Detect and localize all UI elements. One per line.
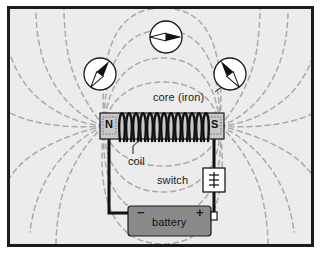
label-terminal-positive: + [196,205,204,220]
battery-terminal-nub [211,212,217,220]
compass-right [214,58,246,90]
field-line-north [56,126,104,246]
field-line-south [220,126,316,180]
field-line-south [220,112,316,127]
field-line-south [220,126,268,246]
compass-left [84,58,116,90]
wire-left [109,139,131,213]
switch-glyph [209,172,219,188]
compass-top [150,21,182,53]
label-terminal-negative: − [137,205,145,220]
label-pole-south: S [211,118,218,130]
label-pole-north: N [105,118,113,130]
field-line-north [8,126,104,180]
electromagnet-figure: core (iron) coil switch battery N S − + [0,0,322,254]
field-line-north [8,112,104,127]
label-switch: switch [157,174,188,186]
label-core: core (iron) [153,91,204,103]
label-battery: battery [152,216,186,228]
label-coil: coil [128,155,145,167]
